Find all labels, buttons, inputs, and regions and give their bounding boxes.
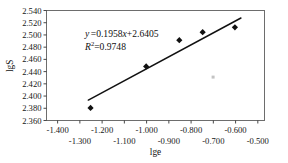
- x-axis-tick-labels-upper: -1.400-1.200-1.000-0.800-0.600: [47, 125, 247, 135]
- regression-equation-text: y=0.1958x+2.6405: [84, 28, 159, 39]
- y-tick-label: 2.360: [22, 116, 41, 126]
- y-axis-label: lgS: [5, 60, 15, 72]
- y-tick-label: 2.540: [22, 6, 41, 16]
- x-tick-label-lower: -1.300: [69, 136, 91, 146]
- x-tick-label-upper: -0.600: [224, 125, 246, 135]
- equation-body: =0.1958: [91, 28, 123, 39]
- y-tick-label: 2.520: [22, 18, 41, 28]
- x-tick-label-lower: -0.900: [158, 136, 180, 146]
- r-squared-text: R2=0.9748: [84, 40, 126, 51]
- y-tick-label: 2.500: [22, 30, 41, 40]
- y-tick-label: 2.440: [22, 67, 41, 77]
- y-tick-label: 2.480: [22, 42, 41, 52]
- r-squared-value: =0.9748: [94, 41, 126, 52]
- scatter-plot: 2.5402.5202.5002.4802.4602.4402.4202.400…: [0, 0, 288, 163]
- x-tick-label-lower: -0.500: [247, 136, 269, 146]
- x-tick-label-lower: -0.700: [202, 136, 224, 146]
- y-tick-label: 2.420: [22, 79, 41, 89]
- x-tick-label-lower: -1.100: [113, 136, 135, 146]
- x-tick-label-upper: -1.400: [47, 125, 69, 135]
- equation-tail: +2.6405: [127, 28, 159, 39]
- y-tick-label: 2.460: [22, 54, 41, 64]
- equation-y-symbol: y: [84, 28, 90, 39]
- y-tick-label: 2.400: [22, 91, 41, 101]
- x-tick-label-upper: -1.000: [136, 125, 158, 135]
- x-axis-tick-labels-lower: -1.300-1.100-0.900-0.700-0.500: [69, 136, 269, 146]
- chart-container: 2.5402.5202.5002.4802.4602.4402.4202.400…: [0, 0, 288, 163]
- x-tick-label-upper: -1.200: [91, 125, 113, 135]
- x-tick-label-upper: -0.800: [180, 125, 202, 135]
- y-axis-ticks: 2.5402.5202.5002.4802.4602.4402.4202.400…: [22, 6, 46, 126]
- stray-artifact-dot: [212, 76, 215, 79]
- x-axis-label: lge: [150, 147, 161, 157]
- y-tick-label: 2.380: [22, 103, 41, 113]
